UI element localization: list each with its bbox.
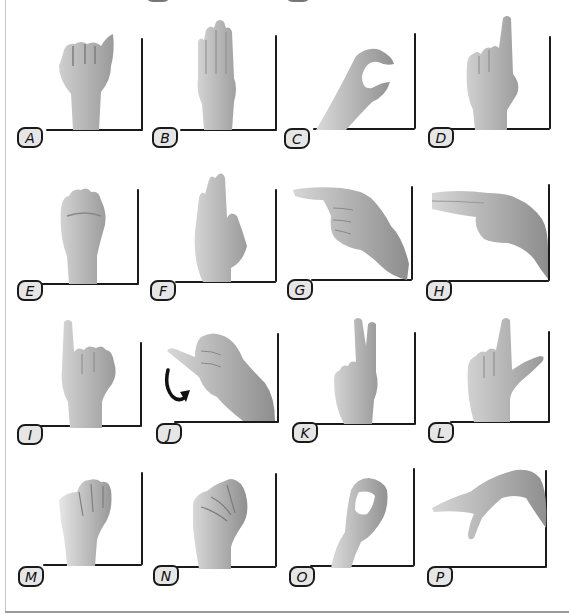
previous-row-badge-stub: [285, 0, 311, 2]
hand-sign-i-icon: [56, 318, 122, 428]
hand-sign-h-icon: [428, 189, 550, 281]
letter-badge: M: [18, 566, 44, 587]
hand-sign-p-icon: [430, 468, 548, 546]
page-border-left: [5, 0, 6, 612]
letter-badge: K: [292, 422, 318, 443]
frame-line: [414, 33, 416, 129]
hand-sign-d-icon: [463, 14, 523, 130]
frame-line: [275, 35, 277, 130]
letter-badge: C: [284, 128, 310, 149]
hand-sign-o-icon: [329, 476, 391, 568]
hand-sign-l-icon: [466, 316, 546, 422]
frame-line: [548, 331, 550, 423]
page-border-bottom: [5, 611, 569, 613]
hand-sign-a-icon: [55, 32, 117, 132]
letter-badge: J: [156, 423, 182, 444]
hand-sign-c-icon: [316, 46, 396, 130]
frame-line: [140, 342, 142, 427]
hand-sign-b-icon: [192, 18, 242, 130]
frame-line: [411, 186, 413, 280]
letter-badge: B: [152, 127, 178, 148]
hand-sign-m-icon: [57, 478, 113, 566]
hand-sign-e-icon: [57, 186, 109, 284]
letter-badge: L: [428, 422, 454, 443]
frame-line: [275, 189, 277, 282]
letter-badge: O: [289, 566, 315, 587]
frame-line: [447, 566, 546, 568]
letter-badge: D: [428, 127, 454, 148]
frame-line: [141, 38, 143, 130]
hand-sign-n-icon: [191, 477, 249, 569]
curved-arrow-icon: [164, 368, 194, 406]
frame-line: [549, 36, 551, 129]
letter-badge: P: [427, 566, 453, 587]
letter-badge: I: [17, 424, 43, 445]
hand-sign-k-icon: [332, 316, 382, 424]
letter-badge: H: [426, 280, 452, 301]
hand-sign-g-icon: [291, 186, 411, 280]
letter-badge: E: [17, 280, 43, 301]
frame-line: [413, 468, 415, 566]
letter-badge: F: [150, 280, 176, 301]
frame-line: [277, 333, 279, 423]
frame-line: [141, 472, 143, 565]
frame-line: [137, 189, 139, 284]
hand-sign-f-icon: [191, 172, 251, 282]
frame-line: [414, 332, 416, 425]
previous-row-badge-stub: [145, 0, 171, 2]
letter-badge: A: [17, 127, 43, 148]
letter-badge: N: [153, 565, 179, 586]
frame-line: [275, 473, 277, 567]
letter-badge: G: [287, 279, 313, 300]
